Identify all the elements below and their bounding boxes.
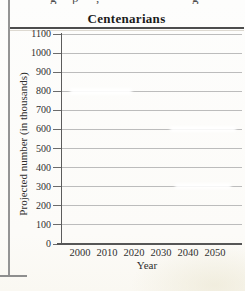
- page: gp,g Centenarians 0100200300400500600700…: [0, 0, 245, 291]
- chart-title: Centenarians: [10, 11, 243, 27]
- y-tick-mark: [53, 110, 61, 111]
- x-tick-label: 2050: [198, 247, 232, 258]
- x-axis-title: Year: [112, 259, 182, 271]
- y-tick-mark: [53, 91, 61, 92]
- page-border-corner-line: [0, 275, 27, 277]
- y-tick-label: 1100: [18, 28, 51, 39]
- y-gridline: [61, 148, 242, 149]
- y-tick-mark: [53, 72, 61, 73]
- y-gridline: [61, 205, 242, 206]
- clipped-glyph: g: [192, 0, 199, 4]
- clipped-text-row: gp,g: [0, 0, 245, 4]
- y-gridline: [61, 129, 242, 130]
- y-tick-mark: [53, 224, 61, 225]
- y-tick-mark: [53, 205, 61, 206]
- y-tick-mark: [53, 53, 61, 54]
- y-gridline: [61, 34, 242, 35]
- y-tick-mark: [53, 129, 61, 130]
- y-gridline: [61, 167, 242, 168]
- y-tick-mark: [53, 148, 61, 149]
- y-tick-mark: [53, 167, 61, 168]
- clipped-glyph: p: [72, 0, 79, 4]
- y-gridline: [61, 91, 242, 92]
- y-axis-title: Projected number (in thousands): [17, 44, 30, 244]
- y-axis-line: [61, 33, 62, 244]
- y-tick-mark: [53, 34, 61, 35]
- y-gridline: [61, 53, 242, 54]
- page-border-line: [8, 0, 10, 277]
- y-gridline: [61, 110, 242, 111]
- y-gridline: [61, 72, 242, 73]
- y-gridline: [61, 186, 242, 187]
- y-tick-mark: [53, 186, 61, 187]
- x-axis-line: [57, 243, 242, 245]
- clipped-glyph: g: [50, 0, 57, 4]
- y-gridline: [61, 224, 242, 225]
- clipped-glyph: ,: [96, 0, 99, 4]
